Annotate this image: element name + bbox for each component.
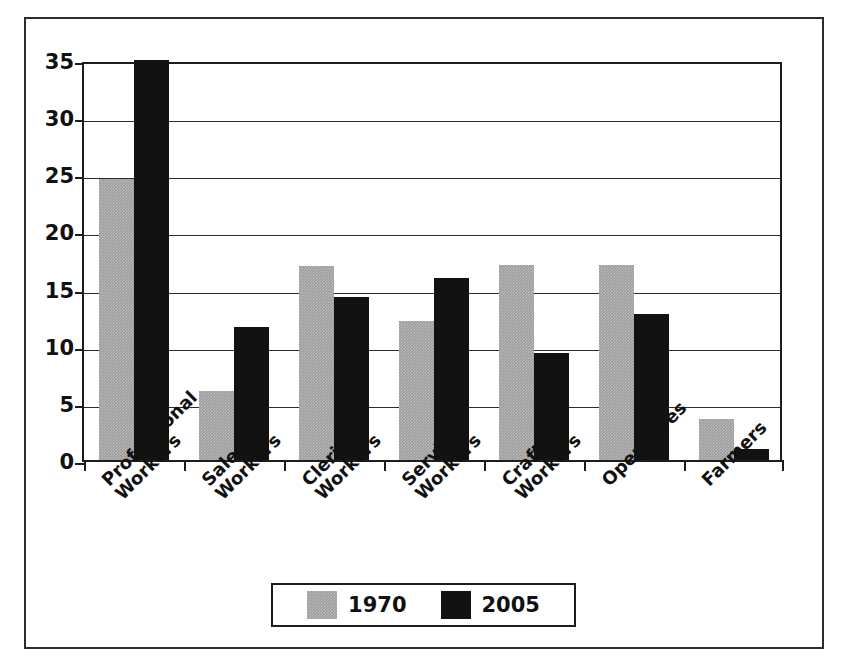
- y-tick-mark-0: [75, 463, 84, 465]
- y-tick-mark-15: [75, 292, 84, 294]
- bar-group: [584, 64, 684, 460]
- x-axis-category-labels: ProfessionalWorkersSalesWorkersClericalW…: [82, 476, 782, 586]
- bar-group: [684, 64, 784, 460]
- y-tick-mark-20: [75, 234, 84, 236]
- y-tick-mark-30: [75, 120, 84, 122]
- y-tick-mark-5: [75, 406, 84, 408]
- y-tick-label-35: 35: [28, 52, 74, 73]
- bar-1970-service-workers: [399, 321, 434, 460]
- y-tick-mark-35: [75, 63, 84, 65]
- bar-group: [384, 64, 484, 460]
- x-tick-mark: [84, 460, 86, 471]
- x-tick-mark: [384, 460, 386, 471]
- bar-group: [484, 64, 584, 460]
- y-tick-label-30: 30: [28, 109, 74, 130]
- bar-2005-professional-workers: [134, 60, 169, 460]
- bar-1970-clerical-workers: [299, 266, 334, 460]
- x-tick-mark: [782, 460, 784, 471]
- chart-legend: 19702005: [271, 583, 576, 627]
- bar-group: [284, 64, 384, 460]
- y-tick-label-10: 10: [28, 338, 74, 359]
- bar-1970-professional-workers: [99, 179, 134, 460]
- y-axis-tick-labels: 35302520151050: [14, 62, 74, 462]
- legend-label: 1970: [348, 593, 406, 617]
- x-tick-mark: [484, 460, 486, 471]
- y-tick-mark-25: [75, 177, 84, 179]
- bar-1970-craft-workers: [499, 265, 534, 460]
- y-tick-label-5: 5: [28, 395, 74, 416]
- gray-swatch: [307, 591, 337, 619]
- x-tick-mark: [284, 460, 286, 471]
- bar-group: [84, 64, 184, 460]
- legend-entry-2005: 2005: [441, 591, 540, 619]
- x-tick-mark: [584, 460, 586, 471]
- legend-entry-1970: 1970: [307, 591, 406, 619]
- y-tick-label-15: 15: [28, 281, 74, 302]
- x-tick-mark: [184, 460, 186, 471]
- x-tick-mark: [684, 460, 686, 471]
- black-swatch: [441, 591, 471, 619]
- y-tick-label-0: 0: [28, 452, 74, 473]
- legend-label: 2005: [482, 593, 540, 617]
- bar-1970-operatives: [599, 265, 634, 460]
- y-tick-label-20: 20: [28, 223, 74, 244]
- y-tick-label-25: 25: [28, 166, 74, 187]
- chart-figure: Percent 35302520151050 ProfessionalWorke…: [0, 0, 846, 668]
- y-tick-mark-10: [75, 349, 84, 351]
